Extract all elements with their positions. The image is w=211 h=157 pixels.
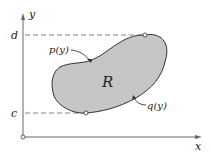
top-point bbox=[143, 33, 147, 37]
p-curve-label: p(y) bbox=[49, 44, 69, 55]
region-label: R bbox=[101, 73, 113, 91]
y-axis-label: y bbox=[28, 8, 36, 21]
x-axis-label: x bbox=[195, 140, 202, 153]
p-leader-arrow-icon bbox=[71, 50, 90, 61]
region-diagram: y x d c p(y) q(y) R bbox=[0, 0, 211, 157]
q-curve-label: q(y) bbox=[147, 100, 167, 111]
c-label: c bbox=[11, 107, 17, 120]
origin-point bbox=[21, 135, 25, 139]
d-label: d bbox=[11, 29, 18, 42]
bottom-point bbox=[84, 111, 88, 115]
x-axis-arrow-icon bbox=[195, 135, 202, 139]
y-axis-arrow-icon bbox=[21, 13, 25, 20]
